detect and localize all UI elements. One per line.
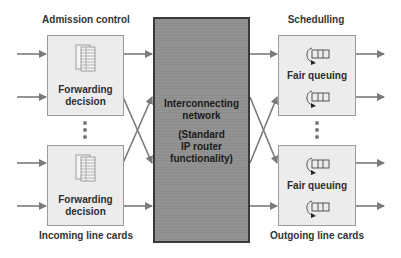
network-label-line5: functionality) bbox=[155, 153, 248, 165]
card-label-line2: decision bbox=[48, 206, 123, 218]
card-label-line1: Forwarding bbox=[48, 194, 123, 206]
network-label-line3: (Standard bbox=[155, 129, 248, 141]
fair-queue-icon bbox=[303, 89, 333, 109]
outgoing-line-card-1: Fair queuing bbox=[278, 35, 356, 116]
card-label-line1: Forwarding bbox=[48, 84, 123, 96]
fair-queue-icon bbox=[303, 199, 333, 219]
outgoing-line-cards-label: Outgoing line cards bbox=[266, 230, 368, 241]
network-label-line2: network bbox=[155, 110, 248, 122]
fair-queuing-label: Fair queuing bbox=[279, 70, 355, 82]
card-label-line2: decision bbox=[48, 96, 123, 108]
incoming-line-card-1: Forwarding decision bbox=[47, 35, 124, 116]
incoming-line-card-2: Forwarding decision bbox=[47, 145, 124, 226]
more-cards-ellipsis bbox=[315, 121, 319, 142]
incoming-line-cards-label: Incoming line cards bbox=[34, 230, 138, 241]
outgoing-line-card-2: Fair queuing bbox=[278, 145, 356, 226]
fair-queue-icon bbox=[303, 46, 333, 66]
forwarding-table-icon bbox=[75, 154, 97, 182]
network-label-line1: Interconnecting bbox=[155, 98, 248, 110]
forwarding-table-icon bbox=[75, 44, 97, 72]
network-label-line4: IP router bbox=[155, 141, 248, 153]
interconnecting-network: Interconnecting network (Standard IP rou… bbox=[153, 17, 250, 243]
fair-queue-icon bbox=[303, 156, 333, 176]
fair-queuing-label: Fair queuing bbox=[279, 180, 355, 192]
more-cards-ellipsis bbox=[83, 121, 87, 142]
